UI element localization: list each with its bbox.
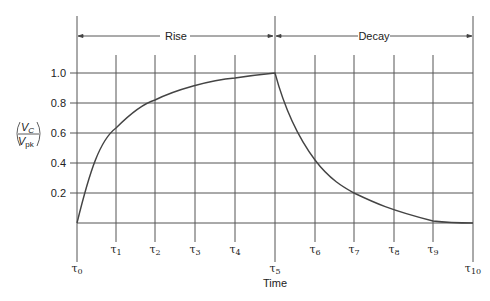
svg-text:τ10: τ10	[465, 262, 481, 276]
svg-text:Vpk: Vpk	[18, 135, 35, 149]
grid	[70, 16, 473, 262]
decay-label: Decay	[358, 30, 390, 42]
svg-text:τ7: τ7	[348, 243, 359, 257]
svg-text:0.4: 0.4	[51, 157, 66, 169]
svg-text:τ3: τ3	[189, 243, 200, 257]
svg-text:0.2: 0.2	[51, 187, 66, 199]
svg-text:0.6: 0.6	[51, 127, 66, 139]
y-axis-label: VC Vpk	[17, 121, 40, 149]
svg-text:τ2: τ2	[149, 243, 160, 257]
svg-text:1.0: 1.0	[51, 67, 66, 79]
svg-text:τ1: τ1	[110, 243, 121, 257]
rc-charge-discharge-chart: Rise Decay 1.0 0.8 0.6 0.4 0.2 VC Vpk τ0…	[0, 0, 490, 301]
svg-text:τ6: τ6	[309, 243, 320, 257]
svg-text:τ0: τ0	[71, 262, 82, 276]
x-axis-label: Time	[263, 277, 287, 289]
x-tick-labels: τ0 τ1 τ2 τ3 τ4 τ5 τ6 τ7 τ8 τ9 τ10	[71, 243, 481, 276]
svg-text:0.8: 0.8	[51, 97, 66, 109]
svg-text:τ8: τ8	[388, 243, 399, 257]
svg-text:τ4: τ4	[229, 243, 240, 257]
svg-text:τ5: τ5	[269, 262, 280, 276]
y-tick-labels: 1.0 0.8 0.6 0.4 0.2	[51, 67, 66, 199]
svg-text:τ9: τ9	[427, 243, 438, 257]
svg-text:VC: VC	[21, 121, 34, 135]
rise-label: Rise	[165, 30, 187, 42]
